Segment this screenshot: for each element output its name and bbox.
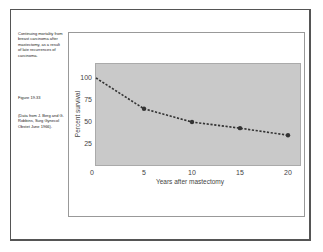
survival-line-plot [95,63,301,166]
y-tick-label: 100 [72,74,92,81]
figure-caption: Continuing mortality from breast carcino… [18,31,64,58]
data-point [142,107,146,111]
data-point [286,133,290,137]
y-axis-label: Percent survival [74,91,81,137]
figure-source: (Data from J. Berg and G. Robbins, Surg … [18,113,66,129]
y-tick-label: 25 [72,140,92,147]
x-tick-label: 15 [232,169,248,176]
survival-line [96,78,288,135]
figure-number: Figure 19.33 [18,95,40,100]
data-point [190,120,194,124]
data-point [238,126,242,130]
x-tick-label: 0 [84,169,100,176]
x-tick-label: 10 [184,169,200,176]
x-tick-label: 5 [136,169,152,176]
x-tick-label: 20 [280,169,296,176]
x-axis-label: Years after mastectomy [156,178,224,185]
